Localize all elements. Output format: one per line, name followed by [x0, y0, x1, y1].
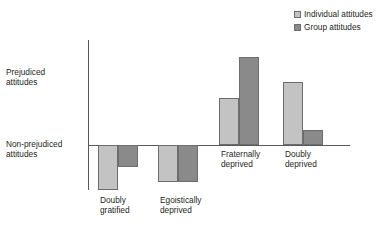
bar-individual-attitudes-3	[283, 82, 303, 145]
bar-individual-attitudes-2	[219, 98, 239, 145]
category-label-0-line2: gratified	[100, 206, 130, 216]
category-label-3-line2: deprived	[285, 160, 317, 170]
category-label-2: Fraternallydeprived	[221, 150, 260, 169]
category-label-1-line2: deprived	[160, 206, 202, 216]
category-label-1: Egoisticallydeprived	[160, 196, 202, 215]
bar-individual-attitudes-0	[98, 145, 118, 190]
bar-group-attitudes-0	[118, 145, 138, 167]
bar-individual-attitudes-1	[158, 145, 178, 182]
category-label-2-line2: deprived	[221, 160, 260, 170]
category-label-0: Doublygratified	[100, 196, 130, 215]
bar-chart: Individual attitudes Group attitudes Pre…	[0, 0, 387, 236]
bar-group-attitudes-2	[239, 57, 259, 145]
category-label-3: Doublydeprived	[285, 150, 317, 169]
plot-area: DoublygratifiedEgoisticallydeprivedFrate…	[0, 0, 387, 236]
bar-group-attitudes-3	[303, 130, 323, 145]
y-axis-line	[88, 40, 89, 190]
bar-group-attitudes-1	[178, 145, 198, 182]
